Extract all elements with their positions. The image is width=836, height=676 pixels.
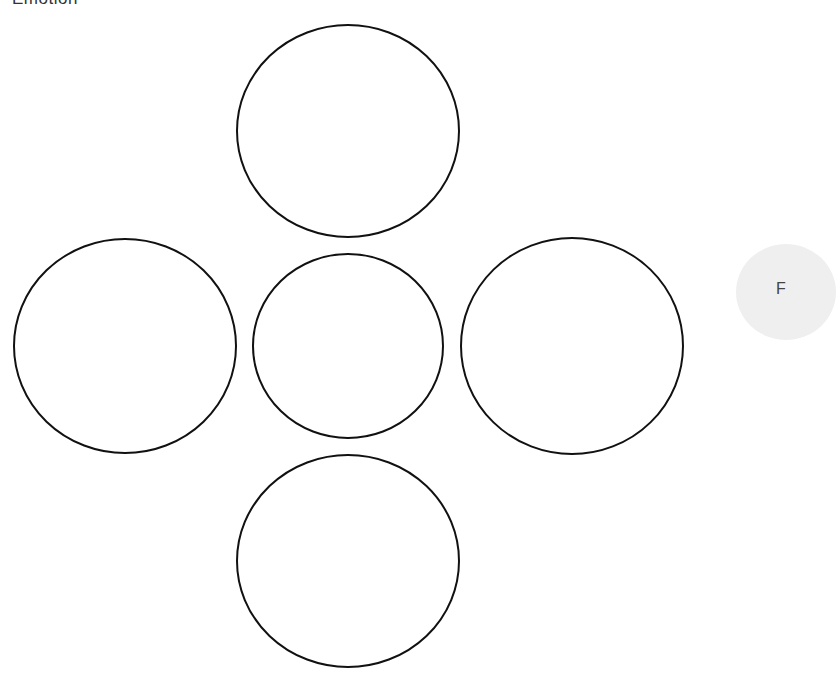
circle-left bbox=[14, 239, 236, 453]
side-bubble-label: F bbox=[776, 280, 786, 298]
circle-right bbox=[461, 238, 683, 454]
circle-center bbox=[253, 254, 443, 438]
side-bubble: F bbox=[736, 244, 836, 340]
circle-top bbox=[237, 25, 459, 237]
circle-bottom bbox=[237, 455, 459, 667]
